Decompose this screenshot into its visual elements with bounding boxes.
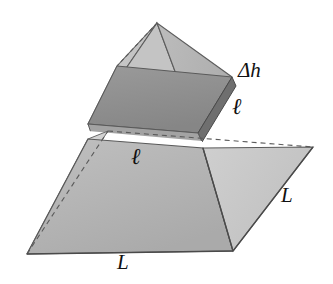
label-L-bottom: L [117,252,129,273]
lower-pyramid-group [27,131,313,254]
pyramid-diagram [0,0,333,284]
pyramid-figure: Δh ℓ ℓ L L [0,0,333,284]
label-delta-h: Δh [238,60,261,81]
slab-group [88,66,236,142]
label-ell-front: ℓ [131,145,141,168]
label-L-right: L [281,185,293,206]
label-ell-right: ℓ [232,95,242,118]
lower-front-left-face [27,139,233,254]
